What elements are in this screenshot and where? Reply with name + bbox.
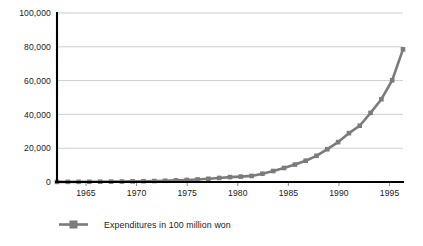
data-point-1983 — [271, 169, 276, 174]
legend-item-label: Expenditures in 100 million won — [104, 220, 231, 230]
data-point-1995 — [401, 47, 406, 52]
data-point-1978 — [217, 176, 222, 181]
data-point-1988 — [325, 147, 330, 152]
xtick-label-1995: 1995 — [380, 188, 400, 198]
data-point-1994 — [390, 78, 395, 83]
data-point-1980 — [239, 174, 244, 179]
expenditures-line-chart: 100,000 80,000 60,000 40,000 20,000 0 19… — [0, 0, 423, 246]
chart-canvas: 100,000 80,000 60,000 40,000 20,000 0 19… — [0, 0, 423, 246]
data-point-1990 — [347, 131, 352, 136]
data-point-1982 — [260, 171, 265, 176]
data-point-1987 — [314, 154, 319, 159]
ytick-label-20000: 20,000 — [24, 143, 51, 153]
legend-swatch-marker — [70, 221, 78, 229]
chart-legend: Expenditures in 100 million won — [59, 220, 231, 230]
xtick-label-1965: 1965 — [76, 188, 96, 198]
data-point-1989 — [336, 140, 341, 145]
data-point-1993 — [379, 97, 384, 102]
data-point-1979 — [228, 175, 233, 180]
data-point-1985 — [293, 162, 298, 167]
xtick-label-1990: 1990 — [329, 188, 349, 198]
ytick-label-100000: 100,000 — [19, 8, 51, 18]
data-point-1977 — [206, 176, 211, 181]
x-axis-labels: 1965 1970 1975 1980 1985 1990 1995 — [76, 188, 399, 198]
xtick-label-1980: 1980 — [228, 188, 248, 198]
data-point-1986 — [303, 158, 308, 163]
ytick-label-60000: 60,000 — [24, 76, 51, 86]
plot-background — [57, 13, 403, 182]
xtick-label-1970: 1970 — [127, 188, 147, 198]
data-point-1984 — [282, 166, 287, 171]
ytick-label-0: 0 — [46, 177, 51, 187]
ytick-label-40000: 40,000 — [24, 110, 51, 120]
data-point-1991 — [357, 123, 362, 128]
xtick-label-1985: 1985 — [279, 188, 299, 198]
data-point-1981 — [249, 174, 254, 179]
y-axis-labels: 100,000 80,000 60,000 40,000 20,000 0 — [19, 8, 51, 187]
data-point-1992 — [368, 111, 373, 116]
xtick-label-1975: 1975 — [177, 188, 197, 198]
ytick-label-80000: 80,000 — [24, 42, 51, 52]
